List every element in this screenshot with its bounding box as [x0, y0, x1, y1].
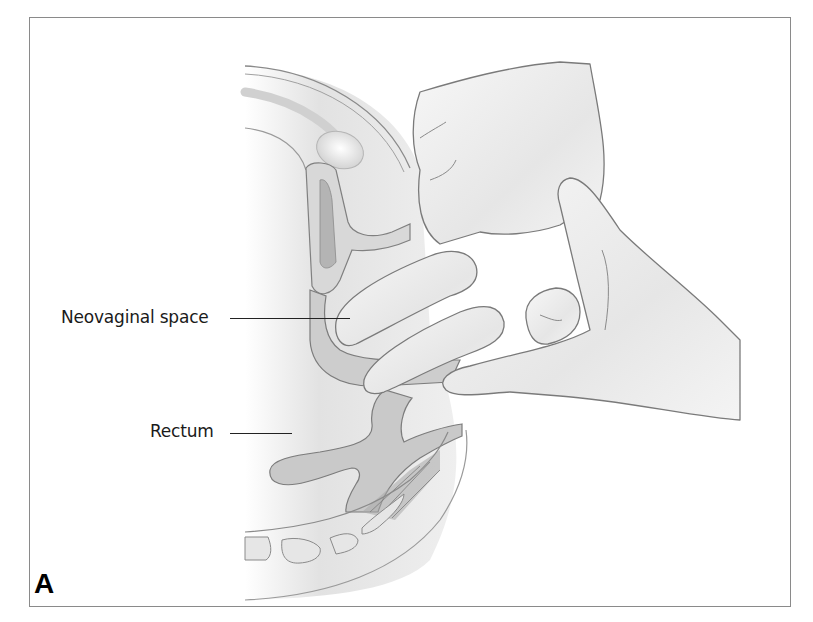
panel-letter: A: [34, 568, 54, 600]
leader-line-neovaginal-space: [230, 318, 350, 319]
label-rectum: Rectum: [150, 421, 214, 441]
leader-line-rectum: [230, 433, 292, 434]
label-neovaginal-space: Neovaginal space: [61, 307, 209, 327]
